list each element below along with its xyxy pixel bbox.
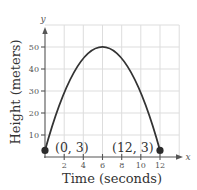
end-point-label: (12, 3)	[112, 140, 154, 155]
y-tick-label: 10	[29, 131, 39, 140]
x-tick-label: 10	[136, 161, 146, 170]
start-point-label: (0, 3)	[55, 140, 89, 155]
y-tick-label: 50	[29, 43, 39, 52]
x-axis-variable: x	[185, 152, 190, 162]
x-tick-label: 2	[62, 161, 67, 170]
y-tick-label: 30	[29, 87, 39, 96]
y-axis-variable: y	[39, 14, 46, 24]
x-tick-label: 12	[155, 161, 165, 170]
x-tick-label: 4	[81, 161, 86, 170]
end-point-marker	[156, 147, 163, 154]
height-vs-time-chart: 50 40 30 20 10 2 4 6 8 10 12 y x Time (s…	[0, 0, 197, 190]
y-axis-title: Height (meters)	[8, 39, 23, 144]
x-axis-title: Time (seconds)	[62, 171, 162, 186]
x-tick-labels: 2 4 6 8 10 12	[62, 161, 165, 170]
y-tick-label: 20	[29, 109, 39, 118]
start-point-marker	[41, 147, 48, 154]
y-tick-label: 40	[29, 65, 39, 74]
y-axis-arrow-icon	[42, 27, 47, 34]
y-tick-labels: 50 40 30 20 10	[29, 43, 39, 140]
x-tick-label: 6	[100, 161, 105, 170]
x-tick-label: 8	[119, 161, 124, 170]
